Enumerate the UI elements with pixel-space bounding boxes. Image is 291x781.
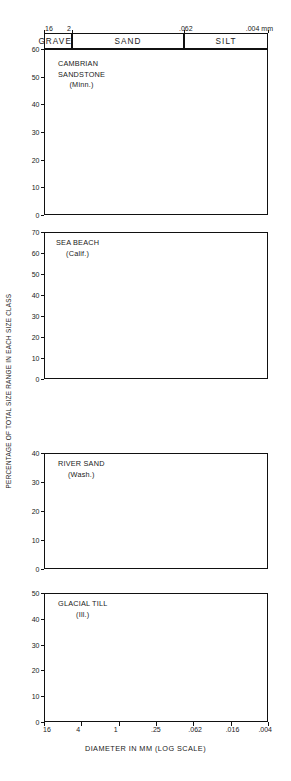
x-tick-mark (119, 722, 120, 726)
histogram-panel-river-sand: 010203040RIVER SAND(Wash.) (44, 453, 268, 569)
x-tick-mark (231, 722, 232, 726)
panel-title-line: CAMBRIAN (58, 59, 105, 70)
y-tick-label: 30 (32, 129, 40, 136)
y-tick-label: 70 (32, 229, 40, 236)
y-tick-label: 20 (32, 667, 40, 674)
x-tick-label: 4 (76, 726, 80, 733)
y-tick-label: 0 (36, 719, 40, 726)
y-tick-label: 60 (32, 46, 40, 53)
x-tick-label: 1 (114, 726, 118, 733)
y-tick-mark (41, 670, 45, 671)
y-tick-mark (41, 619, 45, 620)
y-tick-label: 0 (36, 212, 40, 219)
y-tick-label: 30 (32, 479, 40, 486)
panel-caption-river-sand: RIVER SAND(Wash.) (58, 459, 105, 480)
header-scale: 162.062.004 mm (44, 21, 268, 33)
header-tick-label: .062 (179, 25, 193, 32)
x-tick-mark (156, 722, 157, 726)
y-tick-mark (41, 253, 45, 254)
header-tick-label: 16 (45, 25, 53, 32)
y-tick-mark (41, 540, 45, 541)
panel-title-line: SEA BEACH (56, 238, 99, 249)
y-tick-label: 40 (32, 615, 40, 622)
y-axis-label-text: PERCENTAGE OF TOTAL SIZE RANGE IN EACH S… (5, 293, 12, 488)
y-tick-label: 40 (32, 101, 40, 108)
panel-title-line: GLACIAL TILL (58, 599, 107, 610)
y-tick-mark (41, 645, 45, 646)
histogram-panel-cambrian-sandstone: 0102030405060CAMBRIANSANDSTONE(Minn.) (44, 49, 268, 215)
y-tick-mark (41, 132, 45, 133)
y-tick-mark (41, 482, 45, 483)
y-tick-label: 0 (36, 566, 40, 573)
class-band-gravel: GRAVEL (44, 33, 72, 49)
panel-subtitle: (Wash.) (58, 470, 105, 481)
y-tick-mark (41, 696, 45, 697)
y-tick-mark (41, 77, 45, 78)
y-tick-mark (41, 337, 45, 338)
header-tick-label: .004 mm (246, 25, 273, 32)
y-tick-label: 10 (32, 184, 40, 191)
y-tick-label: 40 (32, 450, 40, 457)
x-axis-title: DIAMETER IN MM (LOG SCALE) (0, 744, 291, 753)
y-tick-mark (41, 593, 45, 594)
class-band-sand: SAND (72, 33, 184, 49)
panel-caption-glacial-till: GLACIAL TILL(Ill.) (58, 599, 107, 620)
histogram-panel-sea-beach: 010203040506070SEA BEACH(Calif.) (44, 232, 268, 379)
y-tick-label: 40 (32, 292, 40, 299)
y-tick-mark (41, 232, 45, 233)
header-tick-label: 2 (67, 25, 71, 32)
panel-caption-sea-beach: SEA BEACH(Calif.) (56, 238, 99, 259)
grain-size-class-header: GRAVELSANDSILT (44, 33, 268, 49)
y-tick-label: 0 (36, 376, 40, 383)
y-tick-mark (41, 295, 45, 296)
y-tick-mark (41, 49, 45, 50)
panel-subtitle: (Calif.) (56, 249, 99, 260)
y-axis-label: PERCENTAGE OF TOTAL SIZE RANGE IN EACH S… (0, 0, 16, 781)
x-tick-mark (44, 722, 45, 726)
x-tick-mark (268, 722, 269, 726)
panel-title-line: SANDSTONE (58, 70, 105, 81)
y-tick-label: 50 (32, 271, 40, 278)
y-tick-label: 30 (32, 641, 40, 648)
x-axis: 1641.25.062.016.004 (44, 722, 268, 738)
y-tick-mark (41, 358, 45, 359)
y-tick-mark (41, 453, 45, 454)
y-tick-label: 20 (32, 508, 40, 515)
panel-title-line: RIVER SAND (58, 459, 105, 470)
y-tick-mark (41, 160, 45, 161)
y-tick-label: 50 (32, 73, 40, 80)
y-tick-mark (41, 511, 45, 512)
y-tick-label: 10 (32, 355, 40, 362)
x-tick-mark (81, 722, 82, 726)
y-tick-mark (41, 316, 45, 317)
x-tick-label: .016 (226, 726, 240, 733)
y-tick-label: 10 (32, 693, 40, 700)
x-tick-label: .004 (258, 726, 272, 733)
y-tick-mark (41, 569, 45, 570)
y-tick-label: 20 (32, 156, 40, 163)
y-tick-mark (41, 379, 45, 380)
panel-subtitle: (Minn.) (58, 80, 105, 91)
y-tick-mark (41, 104, 45, 105)
y-tick-label: 60 (32, 250, 40, 257)
y-tick-label: 30 (32, 313, 40, 320)
y-tick-mark (41, 187, 45, 188)
y-tick-label: 50 (32, 590, 40, 597)
x-tick-mark (193, 722, 194, 726)
y-tick-label: 20 (32, 334, 40, 341)
panel-caption-cambrian-sandstone: CAMBRIANSANDSTONE(Minn.) (58, 59, 105, 91)
x-tick-label: 16 (43, 726, 51, 733)
panel-subtitle: (Ill.) (58, 610, 107, 621)
histogram-panel-glacial-till: 01020304050GLACIAL TILL(Ill.) (44, 593, 268, 722)
y-tick-mark (41, 274, 45, 275)
x-tick-label: .25 (151, 726, 161, 733)
class-band-silt: SILT (184, 33, 268, 49)
y-tick-label: 10 (32, 537, 40, 544)
x-tick-label: .062 (188, 726, 202, 733)
y-tick-mark (41, 215, 45, 216)
